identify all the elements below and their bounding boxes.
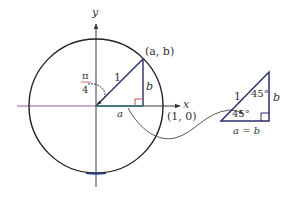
small-vertical-leg-label: b bbox=[273, 91, 280, 104]
angle-denominator: 4 bbox=[82, 84, 88, 95]
vertical-leg-label: b bbox=[146, 80, 153, 93]
unit-point-label: (1, 0) bbox=[167, 110, 197, 123]
right-angle-marker bbox=[135, 99, 143, 106]
small-right-angle-marker bbox=[261, 113, 269, 121]
point-label: (a, b) bbox=[145, 45, 174, 58]
angle-arc-icon bbox=[88, 84, 105, 104]
small-top-angle-label: 45° bbox=[251, 88, 269, 99]
unit-circle-diagram: y x (a, b) (1, 0) 1 b a π 4 1 45° 45° b … bbox=[0, 0, 291, 199]
small-bottom-angle-label: 45° bbox=[232, 108, 250, 119]
small-bottom-label: a = b bbox=[233, 125, 260, 136]
circle-bottom-accent bbox=[86, 173, 106, 174]
small-hypotenuse-label: 1 bbox=[234, 90, 241, 103]
horizontal-leg-label: a bbox=[117, 108, 123, 119]
angle-numerator: π bbox=[82, 70, 89, 81]
y-axis-label: y bbox=[91, 6, 99, 19]
hypotenuse-label: 1 bbox=[114, 71, 121, 84]
